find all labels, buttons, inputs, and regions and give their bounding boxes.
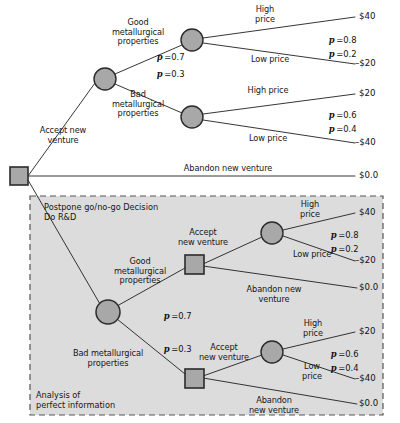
decision-tree-figure: Accept new venture Abandon new venture G… bbox=[0, 0, 400, 423]
label-abandon-new-venture-top: Abandon new venture bbox=[184, 164, 272, 174]
label-high-price-bad: High price bbox=[248, 86, 289, 96]
prob-equals: = bbox=[163, 69, 172, 79]
label-bad-metallurgical: Bad metallurgical properties bbox=[112, 90, 164, 119]
node-decision-after-good[interactable] bbox=[185, 255, 204, 274]
payoff-inner-good-low: –$20 bbox=[355, 256, 376, 266]
node-chance-rd-result[interactable] bbox=[96, 300, 120, 324]
node-root-decision[interactable] bbox=[10, 167, 28, 185]
prob-value: 0.3 bbox=[171, 69, 184, 79]
caption-postpone-do-rd: Postpone go/no-go Decision Do R&D bbox=[44, 203, 158, 223]
payoff-inner-bad-abandon: $0.0 bbox=[359, 399, 378, 409]
label-low-price-good: Low price bbox=[251, 55, 289, 65]
label-inner-bad-metallurgical: Bad metallurgical properties bbox=[73, 349, 143, 368]
label-inner-accept-good: Accept new venture bbox=[178, 228, 228, 247]
node-decision-after-bad[interactable] bbox=[185, 369, 204, 388]
node-chance-inner-price-good[interactable] bbox=[261, 222, 283, 244]
payoff-inner-bad-low: –$40 bbox=[355, 374, 376, 384]
prob-inner-bad-metallurgical: p =0.3 bbox=[153, 335, 192, 364]
prob-good-low-price: p =0.2 bbox=[318, 40, 357, 69]
prob-equals: = bbox=[337, 363, 346, 373]
label-inner-high-price-bad: High price bbox=[303, 319, 323, 338]
prob-equals: = bbox=[170, 311, 179, 321]
prob-equals: = bbox=[170, 344, 179, 354]
prob-equals: = bbox=[335, 49, 344, 59]
prob-value: 0.7 bbox=[178, 311, 191, 321]
payoff-abandon-top: $0.0 bbox=[359, 171, 378, 181]
payoff-good-low: –$20 bbox=[355, 59, 376, 69]
label-inner-accept-bad: Accept new venture bbox=[199, 343, 249, 362]
prob-equals: = bbox=[337, 244, 346, 254]
prob-inner-good-low: p =0.2 bbox=[320, 235, 359, 264]
caption-analysis-perfect-information: Analysis of perfect information bbox=[36, 391, 115, 411]
prob-value: 0.3 bbox=[178, 344, 191, 354]
node-chance-metallurgical[interactable] bbox=[94, 68, 116, 90]
payoff-bad-high: $20 bbox=[359, 89, 375, 99]
label-low-price-bad: Low price bbox=[249, 134, 287, 144]
prob-value: 0.4 bbox=[345, 363, 358, 373]
prob-inner-good-metallurgical: p =0.7 bbox=[153, 302, 192, 331]
label-inner-abandon-good: Abandon new venture bbox=[247, 285, 302, 304]
payoff-inner-good-high: $40 bbox=[359, 208, 375, 218]
prob-value: 0.4 bbox=[343, 124, 356, 134]
prob-inner-bad-low: p =0.4 bbox=[320, 354, 359, 383]
prob-bad-low-price: p =0.4 bbox=[318, 115, 357, 144]
node-chance-inner-price-bad[interactable] bbox=[261, 341, 283, 363]
prob-bad-metallurgical: p =0.3 bbox=[146, 60, 185, 89]
label-inner-good-metallurgical: Good metallurgical properties bbox=[114, 257, 166, 286]
prob-equals: = bbox=[335, 124, 344, 134]
label-accept-new-venture: Accept new venture bbox=[40, 126, 86, 145]
payoff-inner-bad-high: $20 bbox=[359, 327, 375, 337]
payoff-bad-low: –$40 bbox=[355, 138, 376, 148]
node-chance-price-bad[interactable] bbox=[181, 106, 203, 128]
payoff-good-high: $40 bbox=[359, 12, 375, 22]
label-high-price-good: High price bbox=[255, 5, 275, 24]
label-inner-abandon-bad: Abandon new venture bbox=[249, 396, 299, 415]
label-inner-low-price-bad: Low price bbox=[302, 362, 322, 381]
payoff-inner-good-abandon: $0.0 bbox=[359, 283, 378, 293]
prob-value: 0.2 bbox=[345, 244, 358, 254]
label-inner-high-price-good: High price bbox=[300, 200, 320, 219]
